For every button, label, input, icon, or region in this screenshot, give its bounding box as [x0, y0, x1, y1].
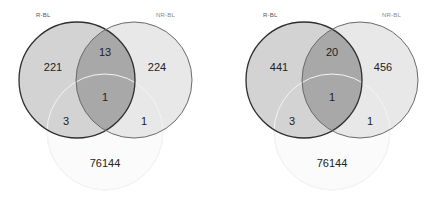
count-a-b-c: 1 — [102, 91, 108, 103]
count-a-only: 221 — [44, 61, 62, 73]
count-b-only: 224 — [148, 61, 166, 73]
set-label-r-bl: R-BL — [36, 12, 50, 18]
venn-circles — [216, 0, 432, 199]
count-a-only: 441 — [270, 61, 288, 73]
count-c-only: 76144 — [317, 157, 348, 169]
count-a-c-only: 3 — [63, 115, 69, 127]
count-a-b-c: 1 — [329, 91, 335, 103]
count-b-c-only: 1 — [141, 115, 147, 127]
count-a-b-only: 20 — [326, 46, 338, 58]
venn-diagram-left: R-BL NR-BL 221 13 224 1 3 1 76144 — [0, 0, 216, 199]
set-label-nr-bl: NR-BL — [382, 12, 401, 18]
count-c-only: 76144 — [90, 157, 121, 169]
count-b-c-only: 1 — [367, 115, 373, 127]
count-a-b-only: 13 — [99, 46, 111, 58]
venn-diagram-right: R-BL NR-BL 441 20 456 1 3 1 76144 — [216, 0, 432, 199]
set-label-nr-bl: NR-BL — [156, 12, 175, 18]
set-label-r-bl: R-BL — [263, 12, 277, 18]
count-b-only: 456 — [374, 61, 392, 73]
count-a-c-only: 3 — [289, 115, 295, 127]
